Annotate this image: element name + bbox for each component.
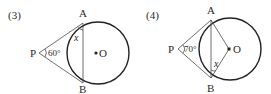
figure-4-number: (4): [146, 9, 159, 22]
unknown-x-label: x: [213, 58, 219, 69]
angle-x-arc: [211, 70, 216, 71]
label-b: B: [79, 83, 86, 94]
center-dot: [228, 48, 231, 51]
angle-60-label: 60°: [48, 48, 61, 58]
label-o: O: [99, 47, 107, 59]
figure-3-number: (3): [8, 9, 21, 22]
unknown-x-label: x: [73, 32, 79, 43]
figure-4: (4) A B P O 70° x: [146, 4, 261, 94]
tangent-pb: [39, 53, 83, 83]
label-a: A: [79, 7, 87, 19]
label-o: O: [233, 43, 241, 55]
angle-p-arc: [45, 49, 46, 57]
label-p: P: [30, 47, 36, 59]
angle-70-label: 70°: [184, 44, 197, 54]
label-a: A: [207, 4, 215, 16]
center-dot: [94, 51, 97, 54]
tangent-diagrams: (3) A B P O 60° x (4) A B P O 70° x: [0, 0, 271, 94]
label-b: B: [207, 82, 214, 94]
radius-oa: [211, 20, 229, 49]
figure-3: (3) A B P O 60° x: [8, 7, 129, 94]
label-p: P: [168, 43, 174, 55]
